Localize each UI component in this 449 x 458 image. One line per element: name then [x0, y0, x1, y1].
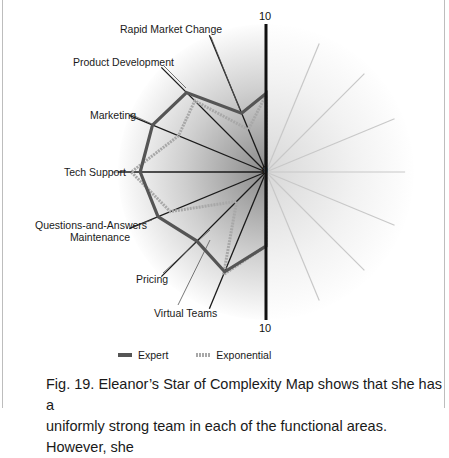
label-qa-line1: Questions-and-Answers [35, 219, 130, 231]
axis-center-label: 0 [262, 165, 268, 176]
label-qa-line2: Maintenance [35, 231, 130, 243]
axis-bottom-label: 10 [259, 322, 271, 334]
exponential-swatch-icon [196, 353, 210, 357]
label-pricing: Pricing [136, 273, 168, 285]
legend-exponential-label: Exponential [216, 349, 271, 361]
figure-caption: Fig. 19. Eleanor’s Star of Complexity Ma… [46, 374, 446, 458]
caption-line-2: uniformly strong team in each of the fun… [46, 416, 446, 458]
label-qa-maintenance: Questions-and-Answers Maintenance [35, 219, 130, 243]
label-marketing: Marketing [90, 109, 136, 121]
caption-line-1: Fig. 19. Eleanor’s Star of Complexity Ma… [46, 374, 446, 416]
axis-top-label: 10 [259, 10, 271, 22]
label-tech-support: Tech Support [64, 166, 126, 178]
legend: Expert Exponential [118, 349, 299, 361]
legend-item-exponential: Exponential [196, 349, 271, 361]
label-virtual-teams: Virtual Teams [154, 307, 217, 319]
legend-item-expert: Expert [118, 349, 168, 361]
label-rapid-market-change: Rapid Market Change [120, 23, 222, 35]
legend-expert-label: Expert [138, 349, 168, 361]
expert-swatch-icon [118, 353, 132, 357]
label-product-development: Product Development [73, 56, 174, 68]
